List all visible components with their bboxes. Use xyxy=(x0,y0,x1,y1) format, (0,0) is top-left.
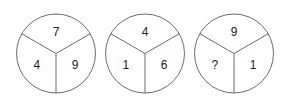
circle-2: 4 1 6 xyxy=(106,14,185,93)
circle-3: 9 ? 1 xyxy=(195,14,274,93)
circle-3-unknown-mark: 1 xyxy=(250,58,257,72)
circle-3-top-number: 9 xyxy=(231,25,238,39)
circle-1-right-number: 9 xyxy=(72,58,79,72)
circle-1-top-number: 7 xyxy=(53,25,60,39)
circle-1: 7 4 9 xyxy=(17,14,96,93)
circle-3-left-number: ? xyxy=(212,58,219,72)
circle-2-left-number: 1 xyxy=(123,58,130,72)
circle-2-top-number: 4 xyxy=(142,25,149,39)
circle-2-right-number: 6 xyxy=(161,58,168,72)
circle-1-left-number: 4 xyxy=(34,58,41,72)
number-circle-puzzle: 7 4 9 4 1 6 9 ? 1 xyxy=(0,0,284,103)
